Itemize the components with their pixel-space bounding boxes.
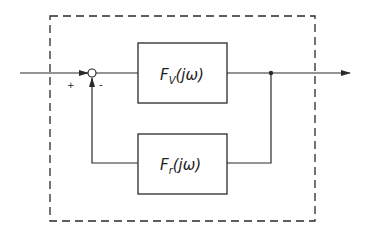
summing-junction bbox=[88, 69, 96, 77]
feedback-path-right bbox=[227, 73, 271, 163]
block-diagram: + - FV(jω) Fr(jω) bbox=[0, 0, 365, 231]
feedback-block-label: Fr(jω) bbox=[160, 156, 201, 176]
plus-sign: + bbox=[67, 80, 75, 90]
minus-sign: - bbox=[99, 79, 103, 90]
feedback-path-left bbox=[92, 78, 138, 163]
forward-block-label: FV(jω) bbox=[160, 66, 204, 86]
